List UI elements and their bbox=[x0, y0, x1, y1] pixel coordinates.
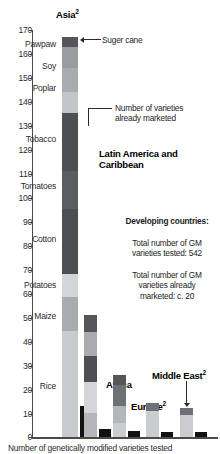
bar-africa-marketed bbox=[128, 431, 140, 437]
segment-af-3 bbox=[113, 406, 126, 423]
crop-label-rice: Rice bbox=[0, 382, 56, 391]
crop-label-maize: Maize bbox=[0, 312, 56, 321]
segment-rice bbox=[62, 331, 78, 437]
y-tick-label: 160 bbox=[6, 50, 32, 59]
bar-africa-tested bbox=[113, 375, 126, 437]
region-label-latin-america: Latin America and Caribbean bbox=[99, 148, 179, 170]
crop-label-cotton: Cotton bbox=[0, 235, 56, 244]
y-tick-label: 130 bbox=[6, 122, 32, 131]
gm-varieties-bar-chart: 170 160 150 140 130 120 110 100 90 80 70… bbox=[0, 0, 220, 454]
y-tick-label: 30 bbox=[6, 362, 32, 371]
info-box: Developing countries: Total number of GM… bbox=[118, 216, 216, 301]
segment-la-1 bbox=[84, 315, 97, 332]
bar-latin-america-marketed bbox=[99, 429, 111, 437]
segment-sugar-cane bbox=[62, 37, 78, 47]
crop-label-potatoes: Potatoes bbox=[0, 281, 56, 290]
middle-east-arrow-shaft bbox=[186, 381, 187, 404]
annotation-sugar-cane: Suger cane bbox=[102, 35, 142, 45]
crop-label-tomatoes: Tomatoes bbox=[0, 182, 56, 191]
y-tick-label: 120 bbox=[6, 146, 32, 155]
segment-af-2 bbox=[113, 385, 126, 406]
segment-cotton bbox=[62, 209, 78, 274]
x-axis-line bbox=[32, 437, 218, 439]
marketed-leader-line-horizontal bbox=[88, 108, 112, 109]
segment-soy bbox=[62, 68, 78, 92]
marketed-leader-line bbox=[88, 108, 89, 126]
annotation-marketed: Number of varieties already marketed bbox=[115, 103, 215, 123]
segment-maize bbox=[62, 297, 78, 331]
segment-af-1 bbox=[113, 375, 126, 385]
bar-middle-east-marketed bbox=[195, 432, 207, 437]
y-tick-label: 60 bbox=[6, 290, 32, 299]
segment-la-5 bbox=[84, 413, 97, 437]
sugar-cane-leader-line bbox=[84, 39, 101, 40]
bar-europe-marketed bbox=[161, 432, 173, 437]
info-box-tested: Total number of GM varieties tested: 542 bbox=[118, 238, 216, 259]
segment-eu-2 bbox=[146, 411, 159, 437]
y-tick-label: 170 bbox=[6, 26, 32, 35]
y-tick-label: 140 bbox=[6, 98, 32, 107]
y-tick-label: 10 bbox=[6, 410, 32, 419]
x-axis-caption: Number of genetically modified varieties… bbox=[8, 444, 172, 453]
segment-tomatoes bbox=[62, 171, 78, 209]
segment-me-1 bbox=[180, 408, 193, 415]
info-box-marketed: Total number of GM varieties already mar… bbox=[118, 270, 216, 302]
y-tick-label: 0 bbox=[6, 433, 32, 442]
crop-label-poplar: Poplar bbox=[0, 84, 56, 93]
segment-tobacco bbox=[62, 113, 78, 171]
crop-label-tobacco: Tobacco bbox=[0, 135, 56, 144]
y-tick-label: 90 bbox=[6, 218, 32, 227]
segment-me-2 bbox=[180, 415, 193, 437]
segment-la-2 bbox=[84, 332, 97, 356]
y-tick-label: 70 bbox=[6, 266, 32, 275]
segment-potatoes bbox=[62, 274, 78, 297]
segment-af-4 bbox=[113, 423, 126, 437]
bar-middle-east-tested bbox=[180, 408, 193, 437]
y-tick-label: 40 bbox=[6, 338, 32, 347]
crop-label-soy: Soy bbox=[0, 62, 56, 71]
segment-la-4 bbox=[84, 382, 97, 413]
crop-label-pawpaw: Pawpaw bbox=[0, 40, 56, 49]
y-tick-label: 150 bbox=[6, 74, 32, 83]
middle-east-arrow-icon bbox=[184, 403, 190, 407]
y-tick-label: 100 bbox=[6, 194, 32, 203]
bar-asia-tested bbox=[62, 37, 78, 437]
segment-pawpaw bbox=[62, 47, 78, 69]
bar-latin-america-tested bbox=[84, 315, 97, 437]
segment-la-3 bbox=[84, 356, 97, 382]
region-label-asia: Asia2 bbox=[56, 6, 79, 20]
info-box-heading: Developing countries: bbox=[118, 216, 216, 227]
sugar-cane-arrow-icon bbox=[80, 37, 84, 43]
segment-poplar bbox=[62, 92, 78, 113]
bar-europe-tested bbox=[146, 403, 159, 437]
y-tick-label: 110 bbox=[6, 170, 32, 179]
segment-eu-1 bbox=[146, 403, 159, 411]
region-label-middle-east: Middle East2 bbox=[152, 367, 206, 381]
